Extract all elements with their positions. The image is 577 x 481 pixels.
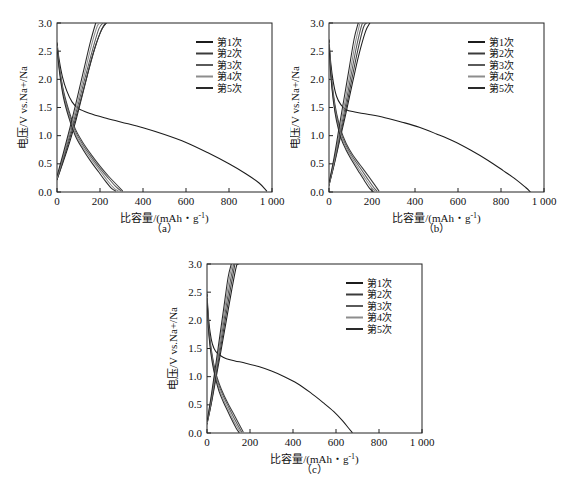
x-tick-label: 0 <box>54 195 60 207</box>
y-tick-label: 3.0 <box>38 17 52 29</box>
legend-label: 第5次 <box>489 82 514 94</box>
x-tick-label: 200 <box>92 195 109 207</box>
y-axis-title: 电压/V vs.Na+/Na <box>290 66 301 149</box>
x-tick-label: 200 <box>364 195 381 207</box>
panel-label-a: （a） <box>151 222 178 234</box>
curve-第1次-discharge <box>207 294 352 433</box>
y-axis-title: 电压/V vs.Na+/Na <box>17 66 29 149</box>
panel-label-c: （c） <box>301 463 328 475</box>
legend-label: 第2次 <box>217 47 242 59</box>
legend-a: 第1次第2次第3次第4次第5次 <box>196 36 242 94</box>
legend-b: 第1次第2次第3次第4次第5次 <box>468 36 514 94</box>
legend-label: 第5次 <box>217 82 242 94</box>
y-tick-label: 2.0 <box>310 73 324 85</box>
y-tick-label: 1.0 <box>310 129 324 141</box>
panel-a: 02004006008001 0000.00.51.01.52.02.53.0比… <box>0 0 290 240</box>
panel-c-plot: 02004006008001 0000.00.51.01.52.02.53.0比… <box>145 240 435 481</box>
curve-第5次-discharge <box>57 48 115 191</box>
x-tick-label: 800 <box>221 195 238 207</box>
legend-label: 第3次 <box>489 59 514 71</box>
legend-c: 第1次第2次第3次第4次第5次 <box>346 277 392 335</box>
y-tick-label: 3.0 <box>188 258 202 270</box>
x-tick-label: 0 <box>204 436 210 448</box>
y-tick-label: 2.5 <box>188 286 202 298</box>
y-tick-label: 2.0 <box>38 73 52 85</box>
legend-label: 第4次 <box>217 70 242 82</box>
x-tick-label: 1 000 <box>260 195 285 207</box>
legend-label: 第3次 <box>367 300 392 312</box>
legend-label: 第1次 <box>489 36 514 48</box>
y-tick-label: 2.0 <box>188 314 202 326</box>
x-tick-label: 1 000 <box>532 195 557 207</box>
panel-b: 02004006008001 0000.00.51.01.52.02.53.0比… <box>290 0 577 240</box>
y-tick-label: 0.0 <box>310 186 324 198</box>
panel-b-plot: 02004006008001 0000.00.51.01.52.02.53.0比… <box>290 0 577 240</box>
x-tick-label: 600 <box>328 436 345 448</box>
panel-c: 02004006008001 0000.00.51.01.52.02.53.0比… <box>145 240 435 481</box>
x-tick-label: 1 000 <box>410 436 435 448</box>
y-axis-title: 电压/V vs.Na+/Na <box>167 307 179 390</box>
y-tick-label: 0.0 <box>38 186 52 198</box>
y-tick-label: 1.5 <box>188 342 202 354</box>
x-tick-label: 0 <box>326 195 332 207</box>
legend-label: 第1次 <box>217 36 242 48</box>
x-tick-label: 800 <box>371 436 388 448</box>
x-tick-label: 600 <box>450 195 467 207</box>
legend-label: 第2次 <box>367 288 392 300</box>
legend-label: 第2次 <box>489 47 514 59</box>
x-tick-label: 800 <box>493 195 510 207</box>
curves-group <box>207 264 352 433</box>
y-tick-label: 1.5 <box>310 101 324 113</box>
legend-label: 第3次 <box>217 59 242 71</box>
x-tick-label: 600 <box>178 195 195 207</box>
legend-label: 第4次 <box>367 311 392 323</box>
y-tick-label: 1.5 <box>38 101 52 113</box>
panel-label-b: （b） <box>423 222 451 234</box>
x-tick-label: 200 <box>242 436 259 448</box>
y-tick-label: 0.5 <box>188 398 202 410</box>
figure-charge-discharge-curves: 02004006008001 0000.00.51.01.52.02.53.0比… <box>0 0 577 481</box>
y-tick-label: 1.0 <box>38 129 52 141</box>
y-tick-label: 0.5 <box>38 157 52 169</box>
y-tick-label: 1.0 <box>188 370 202 382</box>
x-tick-label: 400 <box>407 195 424 207</box>
y-tick-label: 3.0 <box>310 17 324 29</box>
legend-label: 第1次 <box>367 277 392 289</box>
legend-label: 第5次 <box>367 323 392 335</box>
y-tick-label: 0.5 <box>310 157 324 169</box>
y-tick-label: 2.5 <box>310 45 324 57</box>
legend-label: 第4次 <box>489 70 514 82</box>
x-tick-label: 400 <box>135 195 152 207</box>
panel-a-plot: 02004006008001 0000.00.51.01.52.02.53.0比… <box>0 0 290 240</box>
y-tick-label: 0.0 <box>188 427 202 439</box>
x-tick-label: 400 <box>285 436 302 448</box>
y-tick-label: 2.5 <box>38 45 52 57</box>
